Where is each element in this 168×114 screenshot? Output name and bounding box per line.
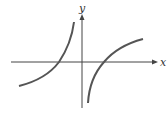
function-graph: x y [0, 0, 168, 114]
curve-right-branch [88, 39, 143, 103]
x-axis-label: x [160, 56, 167, 69]
y-axis-label: y [78, 2, 86, 15]
x-axis-arrow-icon [152, 60, 158, 65]
x-axis: x [11, 56, 167, 69]
y-axis: y [78, 2, 86, 108]
curve-left-branch [19, 22, 74, 86]
